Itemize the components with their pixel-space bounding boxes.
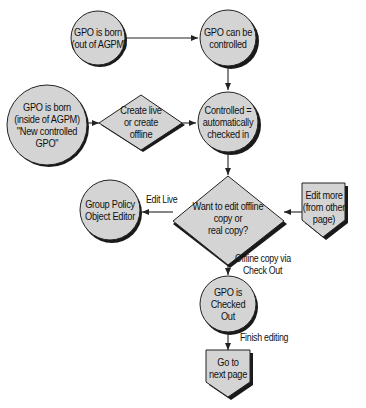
- edge-label-edit-live: Edit Live: [146, 194, 177, 206]
- node-edit-choice-label: Want to edit offline copy or real copy?: [188, 200, 267, 236]
- node-born-out-label: GPO is born (out of AGPM): [72, 26, 125, 50]
- edge-label-offline-copy: Offline copy via Check Out: [235, 253, 291, 277]
- node-checked-out-label: GPO is Checked Out: [202, 286, 255, 322]
- node-checked-in-label: Controlled = automatically checked in: [197, 104, 259, 140]
- node-born-inside-label: GPO is born (inside of AGPM) "New contro…: [12, 101, 82, 149]
- shadows: [9, 13, 348, 400]
- edge-label-finish-editing: Finish editing: [240, 332, 288, 344]
- node-can-be-controlled-label: GPO can be controlled: [202, 26, 255, 50]
- node-next-page-label: Go to next page: [204, 356, 252, 380]
- node-create-choice-label: Create live or create offline: [115, 104, 168, 140]
- node-gpo-editor-label: Group Policy Object Editor: [80, 198, 140, 222]
- node-edit-more-label: Edit more (from other page): [300, 189, 348, 225]
